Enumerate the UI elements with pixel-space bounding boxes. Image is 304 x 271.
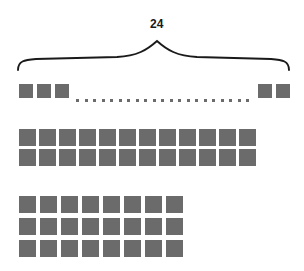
- unit-square: [19, 218, 36, 235]
- unit-square: [219, 149, 236, 166]
- unit-square: [166, 218, 183, 235]
- unit-square: [82, 196, 99, 213]
- ellipsis-dot: [144, 99, 147, 102]
- unit-square: [55, 84, 69, 98]
- unit-square: [124, 218, 141, 235]
- unit-square: [39, 149, 56, 166]
- unit-square: [139, 129, 156, 146]
- unit-square: [124, 240, 141, 257]
- unit-square: [79, 149, 96, 166]
- unit-square: [19, 196, 36, 213]
- unit-square: [179, 149, 196, 166]
- brace-total-label: 24: [150, 18, 164, 30]
- unit-square: [61, 240, 78, 257]
- ellipsis-dot: [110, 99, 113, 102]
- ellipsis-dot: [93, 99, 96, 102]
- unit-square: [119, 149, 136, 166]
- unit-square: [61, 196, 78, 213]
- unit-square: [19, 240, 36, 257]
- unit-square: [19, 149, 36, 166]
- unit-square: [61, 218, 78, 235]
- ellipsis-dot: [136, 99, 139, 102]
- unit-square: [119, 129, 136, 146]
- ellipsis-dot: [246, 99, 249, 102]
- unit-square: [145, 196, 162, 213]
- unit-square: [124, 196, 141, 213]
- unit-square: [59, 149, 76, 166]
- unit-square: [258, 84, 272, 98]
- ellipsis-dot: [127, 99, 130, 102]
- ellipsis-dot: [212, 99, 215, 102]
- unit-square: [40, 240, 57, 257]
- unit-square: [103, 240, 120, 257]
- unit-square: [40, 218, 57, 235]
- unit-square: [139, 149, 156, 166]
- unit-square: [99, 129, 116, 146]
- unit-square: [145, 218, 162, 235]
- ellipsis-dot: [178, 99, 181, 102]
- unit-square: [219, 129, 236, 146]
- unit-square: [239, 129, 256, 146]
- ellipsis-dot: [238, 99, 241, 102]
- ellipsis-dot: [195, 99, 198, 102]
- unit-square: [166, 240, 183, 257]
- unit-square: [159, 149, 176, 166]
- unit-square: [82, 218, 99, 235]
- unit-square: [103, 218, 120, 235]
- unit-square: [179, 129, 196, 146]
- unit-square: [19, 129, 36, 146]
- ellipsis-dot: [229, 99, 232, 102]
- ellipsis-dot: [153, 99, 156, 102]
- ellipsis-dot: [170, 99, 173, 102]
- unit-square: [59, 129, 76, 146]
- ellipsis-dot: [221, 99, 224, 102]
- ellipsis-dot: [102, 99, 105, 102]
- unit-square: [37, 84, 51, 98]
- array-model-diagram: 24: [0, 0, 304, 271]
- ellipsis-dot: [76, 99, 79, 102]
- ellipsis-dot: [187, 99, 190, 102]
- unit-square: [19, 84, 33, 98]
- unit-square: [99, 149, 116, 166]
- unit-square: [82, 240, 99, 257]
- unit-square: [199, 129, 216, 146]
- unit-square: [79, 129, 96, 146]
- unit-square: [276, 84, 290, 98]
- unit-square: [103, 196, 120, 213]
- ellipsis-dot: [85, 99, 88, 102]
- ellipsis-dot: [119, 99, 122, 102]
- unit-square: [199, 149, 216, 166]
- unit-square: [159, 129, 176, 146]
- unit-square: [166, 196, 183, 213]
- unit-square: [145, 240, 162, 257]
- ellipsis-dot: [161, 99, 164, 102]
- ellipsis-dot: [204, 99, 207, 102]
- unit-square: [39, 129, 56, 146]
- unit-square: [239, 149, 256, 166]
- unit-square: [40, 196, 57, 213]
